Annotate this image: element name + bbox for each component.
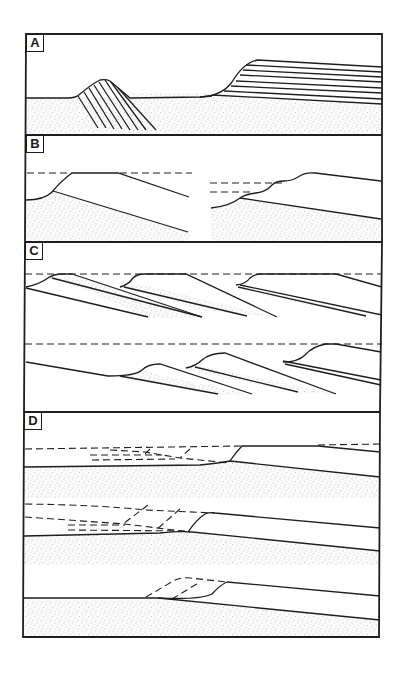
- panel-b: [26, 173, 381, 242]
- panel-label-c: C: [25, 242, 43, 260]
- diagram-figure: [0, 0, 403, 675]
- panel-c: [25, 274, 382, 395]
- panel-label-b: B: [26, 135, 44, 153]
- panel-label-d: D: [24, 412, 42, 430]
- panel-d: [24, 444, 380, 637]
- panel-label-a: A: [26, 34, 44, 52]
- panel-a: [26, 60, 382, 135]
